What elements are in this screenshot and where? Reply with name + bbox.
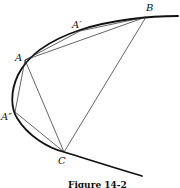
parabola-chord-diagram: B A′ A A″ C Figure 14-2 bbox=[0, 0, 180, 188]
label-B: B bbox=[145, 2, 153, 13]
label-A-double-prime: A″ bbox=[0, 111, 12, 122]
chord-A-C bbox=[25, 60, 64, 152]
chord-B-C bbox=[64, 17, 146, 152]
curve bbox=[12, 16, 178, 176]
chord-A-Adoubleprime bbox=[15, 60, 25, 112]
label-C: C bbox=[58, 155, 66, 166]
figure-caption: Figure 14-2 bbox=[68, 180, 127, 188]
label-A: A bbox=[14, 52, 22, 63]
chord-A-Aprime bbox=[25, 31, 80, 60]
chord-Adoubleprime-C bbox=[15, 112, 64, 152]
label-A-prime: A′ bbox=[71, 19, 82, 30]
chord-A-B bbox=[25, 17, 146, 60]
